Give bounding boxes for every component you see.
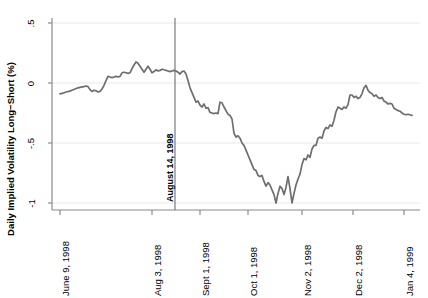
y-tick-label-text: -.5 [26,137,37,148]
x-tick-label-5: Dec 2, 1998 [347,218,359,298]
y-tick-label-3: -1 [16,197,46,209]
x-tick-label-text: Oct 1, 1998 [248,247,259,296]
x-tick-label-4: Nov 2, 1998 [296,218,308,298]
x-tick-label-text: Aug 3, 1998 [152,245,163,296]
chart-figure: Daily Implied Volatility Long−Short (%) … [0,0,428,298]
x-tick-label-0: June 9, 1998 [54,218,66,298]
x-tick-label-6: Jan 4, 1999 [398,218,410,298]
y-tick-label-text: -1 [25,199,36,207]
x-tick-label-3: Oct 1, 1998 [242,218,254,298]
x-tick-label-text: Dec 2, 1998 [353,245,364,296]
x-tick-label-text: Nov 2, 1998 [302,245,313,296]
y-tick-label-0: .5 [16,17,46,29]
x-tick-label-2: Sept 1, 1998 [194,218,206,298]
x-tick-label-text: Sept 1, 1998 [200,242,211,296]
x-tick-label-text: June 9, 1998 [60,241,71,296]
y-tick-label-2: -.5 [16,137,46,149]
x-tick-label-1: Aug 3, 1998 [146,218,158,298]
y-tick-label-text: 0 [25,80,36,85]
annotation-label-text: August 14, 1998 [165,133,175,202]
y-tick-label-1: 0 [16,77,46,89]
y-tick-label-text: .5 [26,19,37,27]
x-tick-label-text: Jan 4, 1999 [404,246,415,296]
